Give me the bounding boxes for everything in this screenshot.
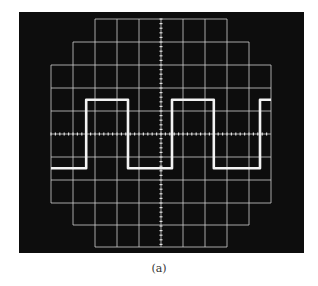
figure-caption: (a) bbox=[0, 262, 318, 275]
oscilloscope-screen bbox=[0, 0, 318, 286]
